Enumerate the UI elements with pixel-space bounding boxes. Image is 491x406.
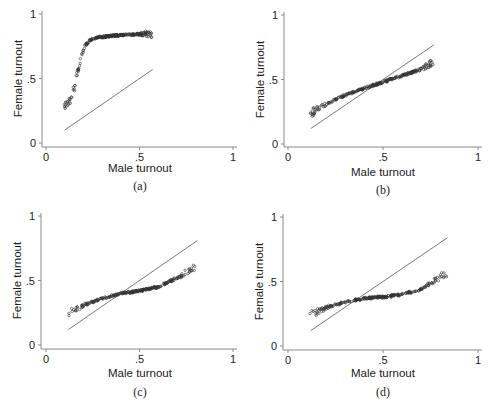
y-tick-label: .5	[27, 73, 36, 85]
y-axis-title: Female turnout	[12, 39, 24, 117]
x-tick-label: 1	[475, 151, 481, 163]
y-axis-title: Female turnout	[253, 242, 265, 320]
panel-label: (a)	[133, 179, 146, 193]
y-tick-label: .5	[268, 276, 277, 288]
y-tick-label: 1	[272, 9, 278, 21]
x-axis-title: Male turnout	[351, 166, 416, 178]
x-axis-title: Male turnout	[108, 162, 173, 174]
x-tick-label: .5	[135, 353, 144, 365]
scatter-points	[309, 59, 434, 117]
figure: 00.5.511Male turnoutFemale turnout(a) 00…	[0, 0, 491, 406]
y-tick-label: 1	[30, 8, 36, 20]
y-tick-label: 1	[29, 210, 35, 222]
x-axis-title: Male turnout	[351, 367, 416, 379]
x-tick-label: 0	[285, 151, 291, 163]
y-tick-label: 0	[271, 340, 277, 352]
reference-line	[68, 241, 197, 330]
scatter-points	[68, 264, 196, 317]
x-tick-label: 0	[43, 353, 49, 365]
y-tick-label: 0	[30, 137, 36, 149]
y-axis-title: Female turnout	[254, 40, 266, 118]
x-tick-label: 1	[230, 353, 236, 365]
panel-a: 00.5.511Male turnoutFemale turnout(a)	[12, 8, 237, 193]
reference-line	[65, 69, 153, 130]
x-axis-title: Male turnout	[108, 367, 173, 379]
x-tick-label: 0	[43, 151, 49, 163]
scatter-points	[309, 272, 448, 317]
panel-label: (b)	[376, 183, 390, 197]
x-tick-label: .5	[378, 151, 387, 163]
x-tick-label: .5	[378, 354, 387, 366]
y-tick-label: 1	[271, 211, 277, 223]
scatter-points	[63, 30, 153, 110]
panel-label: (c)	[133, 385, 146, 399]
x-tick-label: 1	[475, 354, 481, 366]
y-tick-label: 0	[272, 138, 278, 150]
panel-b: 00.5.511Male turnoutFemale turnout(b)	[254, 9, 482, 197]
panel-c: 00.5.511Male turnoutFemale turnout(c)	[11, 210, 237, 399]
x-tick-label: 1	[230, 151, 236, 163]
x-tick-label: 0	[285, 354, 291, 366]
panel-label: (d)	[376, 385, 390, 399]
panel-d: 00.5.511Male turnoutFemale turnout(d)	[253, 211, 482, 399]
y-tick-label: 0	[29, 339, 35, 351]
y-tick-label: .5	[26, 275, 35, 287]
y-axis-title: Female turnout	[11, 241, 23, 319]
y-tick-label: .5	[269, 74, 278, 86]
